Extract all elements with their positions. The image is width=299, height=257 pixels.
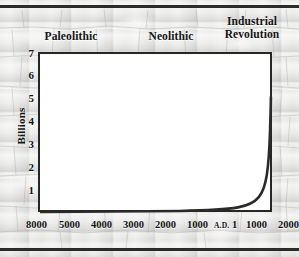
y-tick-label-1: 1 (18, 184, 34, 196)
era-label-paleolithic: Paleolithic (36, 30, 106, 43)
population-growth-curve (41, 97, 271, 212)
population-curve-svg (40, 54, 274, 214)
x-tick-label-8000bc: 8000 (26, 219, 47, 230)
era-label-industrial-revolution: Industrial Revolution (209, 15, 295, 40)
plot-area (38, 52, 272, 212)
top-border-rule (0, 5, 299, 8)
y-tick-label-5: 5 (18, 92, 34, 104)
x-tick-label-1000ad: 1000 (246, 219, 267, 230)
y-tick-label-3: 3 (18, 138, 34, 150)
y-tick-label-2: 2 (18, 161, 34, 173)
x-tick-label-1000bc: 1000 (187, 219, 208, 230)
x-tick-label-2000bc: 2000 (155, 219, 176, 230)
x-tick-label-2000ad: 2000 (278, 219, 299, 230)
population-growth-chart: Paleolithic Neolithic Industrial Revolut… (0, 0, 299, 257)
x-tick-label-3000bc: 3000 (123, 219, 144, 230)
x-tick-label-ad1: A.D. 1 (214, 219, 237, 230)
x-tick-label-5000bc: 5000 (59, 219, 80, 230)
y-tick-label-6: 6 (18, 69, 34, 81)
bottom-border-rule (0, 248, 299, 251)
y-tick-label-7: 7 (18, 47, 34, 59)
y-tick-label-4: 4 (18, 115, 34, 127)
era-label-neolithic: Neolithic (138, 30, 204, 43)
x-tick-label-4000bc: 4000 (91, 219, 112, 230)
